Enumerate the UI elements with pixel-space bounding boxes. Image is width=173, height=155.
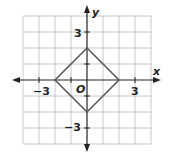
x-tick-label-neg3: −3 bbox=[33, 85, 50, 98]
axes bbox=[15, 8, 157, 150]
y-tick-label-neg3: −3 bbox=[64, 121, 81, 134]
y-axis-down-arrow-icon bbox=[84, 144, 90, 152]
coordinate-plane: −3 3 3 −3 O x y bbox=[0, 0, 173, 155]
x-axis-label: x bbox=[152, 65, 161, 78]
y-axis-up-arrow-icon bbox=[84, 5, 90, 13]
y-tick-label-3: 3 bbox=[74, 27, 82, 40]
y-axis-label: y bbox=[92, 6, 100, 19]
x-tick-label-3: 3 bbox=[131, 85, 139, 98]
origin-label: O bbox=[76, 83, 85, 96]
x-axis-left-arrow-icon bbox=[12, 77, 20, 83]
